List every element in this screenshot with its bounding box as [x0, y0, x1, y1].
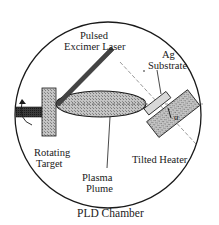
- rotation-arrowhead-icon: [19, 99, 26, 104]
- pld-chamber-diagram: Pulsed Excimer Laser Ag Substrate Rotati…: [0, 0, 219, 225]
- target-label-line1: Rotating: [34, 147, 71, 158]
- plume-label-line2: Plume: [86, 183, 113, 194]
- plume-label-line1: Plasma: [82, 172, 113, 183]
- angle-label: α: [174, 112, 179, 122]
- diagram-caption: PLD Chamber: [77, 207, 144, 219]
- substrate-dot: [143, 70, 145, 72]
- substrate-label-line1: Ag: [162, 49, 176, 60]
- substrate-leader-line: [157, 70, 161, 94]
- heater-label: Tilted Heater: [132, 154, 188, 165]
- laser-label-line2: Excimer Laser: [64, 41, 126, 52]
- target-label-line2: Target: [36, 158, 63, 169]
- target-rod: [16, 107, 44, 117]
- rotating-target: [42, 88, 56, 136]
- laser-label-line1: Pulsed: [80, 30, 109, 41]
- substrate-label-line2: Substrate: [148, 60, 187, 71]
- plume-leader-line: [107, 117, 110, 168]
